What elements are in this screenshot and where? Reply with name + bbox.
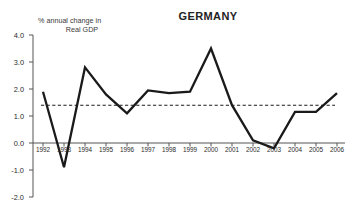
gdp-line-chart: GERMANY % annual change in Real GDP 4.03… (0, 0, 360, 209)
y-axis-tick-label: -1.0 (2, 166, 24, 175)
y-axis-tick-label: 0.0 (2, 139, 24, 148)
x-axis-tick-label: 2006 (325, 146, 349, 153)
y-axis-tick-label: 4.0 (2, 31, 24, 40)
y-axis-tick-label: 2.0 (2, 85, 24, 94)
y-axis-description-line2: Real GDP (38, 26, 138, 35)
y-axis-tick-label: 1.0 (2, 112, 24, 121)
chart-title: GERMANY (148, 10, 268, 22)
y-axis-description: % annual change in Real GDP (38, 17, 138, 34)
y-axis-tick-label: 3.0 (2, 58, 24, 67)
y-axis-tick-label: -2.0 (2, 193, 24, 202)
